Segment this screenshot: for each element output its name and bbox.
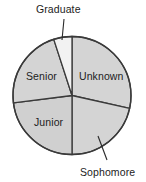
pie-label-junior: Junior <box>34 116 63 128</box>
pie-label-senior: Senior <box>26 70 57 82</box>
pie-chart-figure: Graduate Senior Unknown Junior Sophomore <box>0 0 146 182</box>
pie-chart-svg <box>0 0 146 182</box>
pie-label-sophomore: Sophomore <box>80 166 135 178</box>
pie-label-unknown: Unknown <box>79 70 123 82</box>
pie-label-graduate: Graduate <box>36 3 81 15</box>
